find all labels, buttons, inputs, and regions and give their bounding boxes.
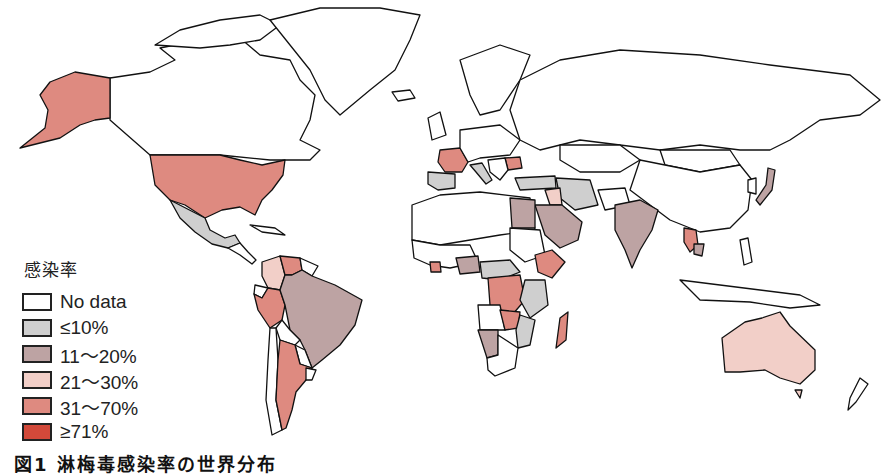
region-kenya-tanzania xyxy=(520,280,548,318)
legend-swatch-11-20 xyxy=(22,345,52,363)
legend-item-11-20: 11～20% xyxy=(22,341,138,367)
legend-swatch-31-70 xyxy=(22,397,52,415)
region-iceland xyxy=(392,90,415,101)
legend-item-no-data: No data xyxy=(22,289,138,315)
legend-label: 31～70% xyxy=(60,393,138,420)
region-tasmania xyxy=(795,390,802,398)
region-namibia xyxy=(478,330,498,358)
legend-label: ≤10% xyxy=(60,317,108,339)
region-indonesia xyxy=(680,280,820,308)
legend-item-le10: ≤10% xyxy=(22,315,138,341)
region-philippines xyxy=(740,238,752,265)
region-korea xyxy=(748,178,756,194)
region-usa xyxy=(150,155,285,218)
legend-item-ge71: ≥71% xyxy=(22,419,138,445)
legend-label: No data xyxy=(60,291,127,313)
legend-swatch-21-30 xyxy=(22,371,52,389)
region-canada xyxy=(110,38,320,160)
legend-item-31-70: 31～70% xyxy=(22,393,138,419)
region-balkans xyxy=(488,158,508,180)
region-new-zealand xyxy=(848,378,868,410)
legend-swatch-no-data xyxy=(22,293,52,311)
region-spain xyxy=(428,172,455,190)
region-uruguay xyxy=(306,368,316,380)
region-japan xyxy=(756,168,775,205)
region-ethiopia xyxy=(535,250,565,278)
region-angola xyxy=(478,305,505,330)
region-turkey xyxy=(515,176,556,190)
region-arctic-islands xyxy=(155,15,280,48)
region-kazakhstan xyxy=(560,145,640,172)
legend-item-21-30: 21～30% xyxy=(22,367,138,393)
region-central-europe xyxy=(460,125,520,162)
region-iraq xyxy=(545,188,562,205)
region-nigeria xyxy=(456,256,480,274)
region-alaska xyxy=(20,72,110,148)
legend-title: 感染率 xyxy=(24,256,138,281)
region-central-america xyxy=(228,243,256,264)
legend-label: 11～20% xyxy=(60,341,137,368)
region-russia xyxy=(510,50,880,150)
region-cuba xyxy=(250,225,285,235)
region-egypt xyxy=(510,198,535,228)
region-madagascar xyxy=(556,312,568,348)
region-australia xyxy=(722,312,815,384)
region-ghana xyxy=(430,262,441,272)
legend-swatch-le10 xyxy=(22,319,52,337)
legend-swatch-ge71 xyxy=(22,423,52,441)
legend-label: 21～30% xyxy=(60,367,138,394)
figure-caption: 図1 淋梅毒感染率の世界分布 xyxy=(14,450,277,476)
region-cambodia xyxy=(694,244,704,256)
region-mozambique xyxy=(516,315,535,348)
region-india xyxy=(615,200,658,268)
legend-label: ≥71% xyxy=(60,421,108,443)
region-uk xyxy=(428,112,446,140)
legend: 感染率 No data ≤10% 11～20% 21～30% 31～70% ≥7… xyxy=(22,256,138,445)
